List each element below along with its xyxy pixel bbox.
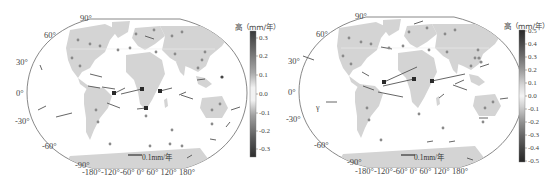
- cb-tick: -0.3: [259, 146, 270, 153]
- cb-tick: 0.1: [259, 72, 268, 79]
- lat-label-60: 60°: [316, 30, 328, 39]
- lat-label-minus60: -60°: [42, 142, 57, 151]
- lat-label-0: 0°: [288, 88, 296, 97]
- colorbar-title: 高（mm/年）: [504, 20, 549, 31]
- scale-label: 0.1mm/年: [414, 151, 444, 162]
- right-map-panel: 90° 60° 30° 0° -30° -60° -90° -180°-120°…: [279, 0, 558, 182]
- lat-label-30: 30°: [288, 57, 300, 66]
- cb-tick: -0.4: [528, 145, 539, 152]
- cb-tick: 0.0: [259, 91, 268, 98]
- lat-label-60: 60°: [44, 31, 56, 40]
- cb-tick: -0.5: [528, 158, 539, 165]
- left-map-panel: 90° 60° 30° 0° -30° -60° -90° -180°-120°…: [0, 0, 279, 182]
- lat-label-30: 30°: [16, 58, 28, 67]
- lat-label-minus30: -30°: [286, 115, 301, 124]
- cb-tick: 0.5: [528, 28, 537, 35]
- cb-tick: 0.0: [528, 93, 537, 100]
- cb-tick: 0.1: [528, 80, 537, 87]
- colorbar-title: 高（mm/年）: [235, 21, 280, 32]
- cb-tick: -0.3: [528, 132, 539, 139]
- cb-tick: 0.4: [528, 41, 537, 48]
- annotation-gamma: γ: [316, 104, 320, 112]
- lat-label-0: 0°: [16, 89, 24, 98]
- cb-tick: -0.2: [528, 119, 539, 126]
- cb-tick: 0.3: [259, 35, 268, 42]
- cb-tick: -0.2: [259, 128, 270, 135]
- cb-tick: -0.1: [259, 110, 270, 117]
- lat-label-minus30: -30°: [15, 117, 30, 126]
- lat-label-minus60: -60°: [314, 141, 329, 150]
- cb-tick: 0.2: [528, 67, 537, 74]
- colorbar: [250, 31, 256, 157]
- lat-label-90: 90°: [80, 14, 92, 23]
- cb-tick: 0.2: [259, 53, 268, 60]
- lon-axis-labels: -180°-120°-60° 0° 60° 120° 180°: [82, 168, 195, 177]
- cb-tick: 0.3: [528, 54, 537, 61]
- colorbar: [519, 30, 525, 162]
- lat-label-90: 90°: [355, 12, 367, 21]
- scale-label: 0.1mm/年: [142, 151, 172, 162]
- cb-tick: -0.1: [528, 106, 539, 113]
- lon-axis-labels: -180°-120°-60° 0° 60° 120° 180°: [355, 167, 468, 176]
